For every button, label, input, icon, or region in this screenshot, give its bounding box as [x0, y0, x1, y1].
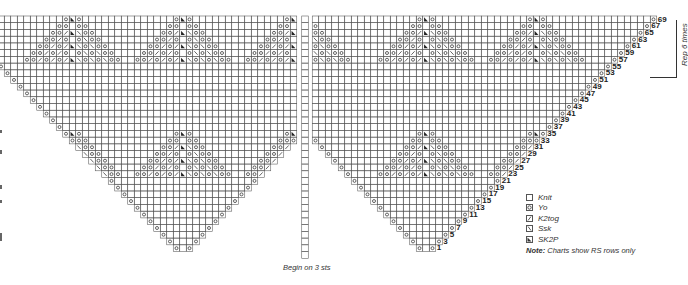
legend-label: SK2P — [538, 235, 558, 244]
legend-item-yo: Yo — [526, 203, 635, 214]
legend: Knit Yo K2tog Ssk SK2P Note: Charts show… — [526, 192, 635, 255]
ssk-symbol-icon — [526, 225, 533, 232]
legend-item-knit: Knit — [526, 192, 635, 203]
row-number: 3 — [443, 238, 447, 246]
knit-symbol-icon — [526, 194, 533, 201]
sk2p-symbol-icon — [526, 236, 533, 243]
yo-symbol-icon — [526, 204, 533, 211]
legend-label: Knit — [538, 193, 552, 202]
row-number: 69 — [658, 16, 667, 24]
row-number: 5 — [450, 231, 454, 239]
legend-item-sk2p: SK2P — [526, 234, 635, 245]
begin-label: Begin on 3 sts — [283, 263, 331, 272]
k2tog-symbol-icon — [526, 215, 533, 222]
legend-label: Yo — [538, 203, 547, 212]
row-number: 7 — [456, 224, 460, 232]
row-number: 9 — [463, 217, 467, 225]
row-number: 1 — [437, 244, 441, 252]
legend-note: Note: Charts show RS rows only — [526, 246, 635, 255]
repeat-bracket-line — [676, 20, 677, 77]
legend-item-k2tog: K2tog — [526, 213, 635, 224]
legend-item-ssk: Ssk — [526, 224, 635, 235]
repeat-label: Rep 6 times — [680, 23, 688, 66]
repeat-bracket-bottom — [650, 77, 677, 78]
note-bold: Note: — [526, 246, 545, 255]
legend-label: Ssk — [538, 224, 551, 233]
legend-label: K2tog — [538, 214, 559, 223]
note-text: Charts show RS rows only — [545, 246, 635, 255]
